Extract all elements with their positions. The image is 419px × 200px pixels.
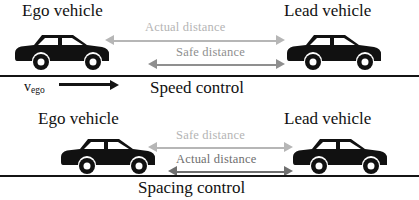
- lead-vehicle-label-speed: Lead vehicle: [284, 2, 371, 19]
- ego-vehicle-icon-speed: [14, 30, 110, 75]
- arrow-head-right-icon: [276, 35, 285, 45]
- road-line-speed: [0, 75, 419, 77]
- ego-vehicle-icon-spacing: [60, 134, 156, 179]
- arrow-head-right-icon: [276, 59, 285, 69]
- safe-distance-label-spacing: Safe distance: [176, 129, 245, 142]
- arrow-shaft: [175, 171, 286, 173]
- v-ego-subscript: ego: [31, 85, 45, 95]
- ego-vehicle-label-speed: Ego vehicle: [22, 2, 103, 19]
- mode-label-speed-control: Speed control: [150, 79, 244, 96]
- panel-spacing-control: Ego vehicle Lead vehicle Safe distance A…: [0, 100, 419, 200]
- lead-vehicle-icon-spacing: [292, 134, 388, 179]
- mode-label-spacing-control: Spacing control: [138, 179, 245, 196]
- arrow-shaft: [155, 147, 286, 149]
- safe-distance-arrow-speed: [148, 59, 285, 70]
- v-ego-label: vego: [24, 79, 45, 95]
- actual-distance-label-speed: Actual distance: [145, 21, 225, 34]
- arrow-shaft: [155, 64, 278, 66]
- lead-vehicle-icon-speed: [286, 30, 382, 75]
- lead-vehicle-label-spacing: Lead vehicle: [284, 110, 371, 127]
- actual-distance-label-spacing: Actual distance: [176, 153, 256, 166]
- arrow-head-right-icon: [110, 80, 119, 90]
- arrow-shaft: [112, 40, 278, 42]
- road-line-spacing: [0, 175, 419, 177]
- safe-distance-label-speed: Safe distance: [176, 46, 245, 59]
- v-ego-arrow-icon: [59, 80, 119, 90]
- v-ego-symbol: v: [24, 79, 31, 94]
- panel-speed-control: Ego vehicle Lead vehicle Actual distance…: [0, 0, 419, 100]
- ego-vehicle-label-spacing: Ego vehicle: [38, 110, 119, 127]
- arrow-shaft: [59, 83, 111, 86]
